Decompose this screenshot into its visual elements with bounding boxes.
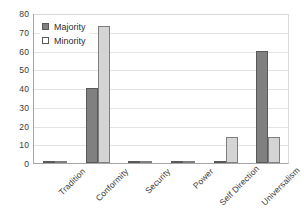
x-axis: Tradition Conformity Security Power Self… [33,164,289,216]
legend-item-minority: Minority [42,34,86,47]
plot-area: Majority Minority [33,14,289,164]
bar-group-security [119,14,162,163]
bar-majority-conformity [86,88,98,163]
bar-chart: 80 70 60 50 40 30 20 10 0 [0,0,304,216]
bar-minority-self-direction [226,137,238,163]
bar-minority-power [183,161,195,163]
legend-label-minority: Minority [54,36,86,46]
bar-majority-security [128,161,140,163]
bar-majority-tradition [43,161,55,163]
legend-item-majority: Majority [42,20,86,33]
x-tick-label-universalism: Universalism [260,167,300,207]
y-tick-label: 10 [19,141,29,150]
y-tick-label: 80 [19,10,29,19]
y-tick-label: 50 [19,66,29,75]
bar-majority-power [171,161,183,163]
x-tick-label-self-direction: Self Direction [218,167,258,207]
bar-minority-security [140,161,152,163]
x-tick-label-power: Power [175,167,215,207]
legend-swatch-icon-minority [42,37,49,44]
y-tick-label: 60 [19,47,29,56]
bar-minority-conformity [98,26,110,163]
bar-group-universalism [247,14,290,163]
x-tick-label-tradition: Tradition [47,167,87,207]
legend-swatch-icon-majority [42,23,49,30]
y-tick-label: 20 [19,122,29,131]
bar-group-self-direction [205,14,248,163]
y-tick-label: 70 [19,28,29,37]
legend-label-majority: Majority [54,22,86,32]
bar-minority-universalism [268,137,280,163]
y-tick-label: 0 [24,160,29,169]
bar-majority-universalism [256,51,268,164]
bar-majority-self-direction [214,161,226,163]
x-tick-label-conformity: Conformity [90,167,130,207]
bar-minority-tradition [55,161,67,163]
legend: Majority Minority [40,18,90,50]
y-axis: 80 70 60 50 40 30 20 10 0 [0,0,32,216]
y-tick-label: 30 [19,103,29,112]
y-tick-label: 40 [19,85,29,94]
x-tick-label-security: Security [132,167,172,207]
bar-group-power [162,14,205,163]
